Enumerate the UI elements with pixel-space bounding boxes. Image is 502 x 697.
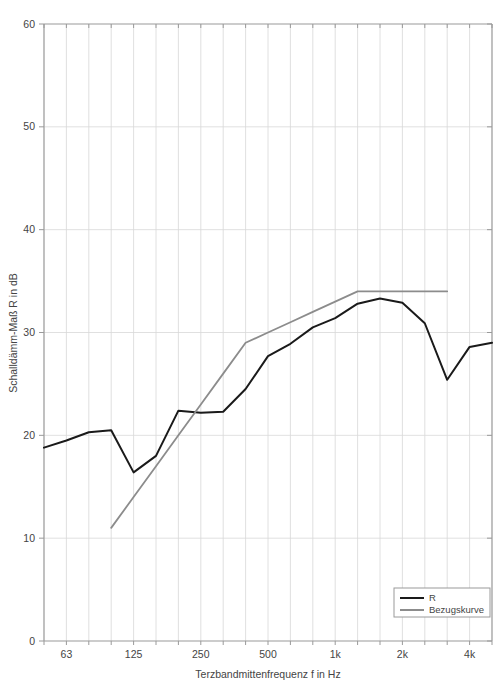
legend-label-r: R	[429, 592, 436, 603]
y-tick-label: 0	[29, 635, 35, 647]
x-tick-label: 125	[125, 648, 143, 660]
x-tick-label: 500	[259, 648, 277, 660]
x-tick-label: 2k	[397, 648, 409, 660]
y-tick-label: 40	[23, 223, 35, 235]
y-tick-label: 30	[23, 326, 35, 338]
x-tick-label: 63	[61, 648, 73, 660]
chart-legend: RBezugskurve	[394, 588, 490, 617]
sound-reduction-index-chart: 631252505001k2k4k 0102030405060 Terzband…	[0, 0, 502, 697]
y-tick-label: 20	[23, 429, 35, 441]
x-axis-title: Terzbandmittenfrequenz f in Hz	[195, 668, 340, 680]
chart-figure: 631252505001k2k4k 0102030405060 Terzband…	[0, 0, 502, 697]
y-tick-label: 10	[23, 532, 35, 544]
y-tick-label: 50	[23, 120, 35, 132]
y-tick-label: 60	[23, 18, 35, 30]
x-tick-label: 250	[192, 648, 210, 660]
x-tick-label: 1k	[330, 648, 342, 660]
legend-label-bezugskurve: Bezugskurve	[429, 604, 484, 615]
y-axis-title: Schalldämm-Maß R in dB	[7, 273, 19, 393]
x-tick-label: 4k	[464, 648, 476, 660]
